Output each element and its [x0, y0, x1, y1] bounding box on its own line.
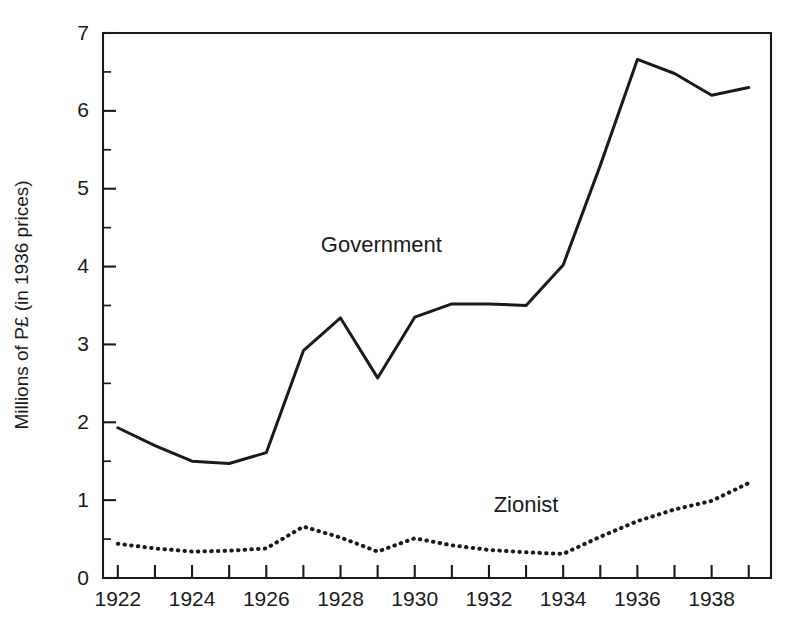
series-annotations: GovernmentZionist	[321, 232, 559, 517]
x-axis-tick-labels: 192219241926192819301932193419361938	[94, 587, 734, 610]
line-chart: 01234567 1922192419261928193019321934193…	[0, 0, 797, 638]
y-axis-title: Millions of P£ (in 1936 prices)	[11, 180, 32, 429]
y-tick-label: 3	[77, 332, 89, 355]
data-series-group	[118, 59, 749, 553]
x-tick-label: 1922	[94, 587, 141, 610]
plot-frame	[103, 33, 771, 578]
x-tick-label: 1936	[614, 587, 661, 610]
axis-frame	[103, 33, 771, 578]
x-tick-label: 1930	[391, 587, 438, 610]
series-line-zionist	[118, 483, 749, 554]
series-label-zionist: Zionist	[494, 492, 559, 517]
x-tick-label: 1932	[466, 587, 513, 610]
y-tick-label: 1	[77, 488, 89, 511]
y-tick-label: 5	[77, 176, 89, 199]
y-tick-label: 7	[77, 21, 89, 44]
x-axis-ticks	[118, 565, 749, 578]
x-tick-label: 1926	[243, 587, 290, 610]
x-tick-label: 1938	[688, 587, 735, 610]
x-tick-label: 1934	[540, 587, 587, 610]
y-axis-ticks	[103, 33, 116, 578]
y-tick-label: 4	[77, 254, 89, 277]
series-line-government	[118, 59, 749, 463]
y-tick-label: 2	[77, 410, 89, 433]
y-tick-label: 6	[77, 98, 89, 121]
y-axis-tick-labels: 01234567	[77, 21, 89, 589]
y-tick-label: 0	[77, 566, 89, 589]
x-tick-label: 1928	[317, 587, 364, 610]
x-tick-label: 1924	[169, 587, 216, 610]
series-label-government: Government	[321, 232, 442, 257]
chart-container: 01234567 1922192419261928193019321934193…	[0, 0, 797, 638]
